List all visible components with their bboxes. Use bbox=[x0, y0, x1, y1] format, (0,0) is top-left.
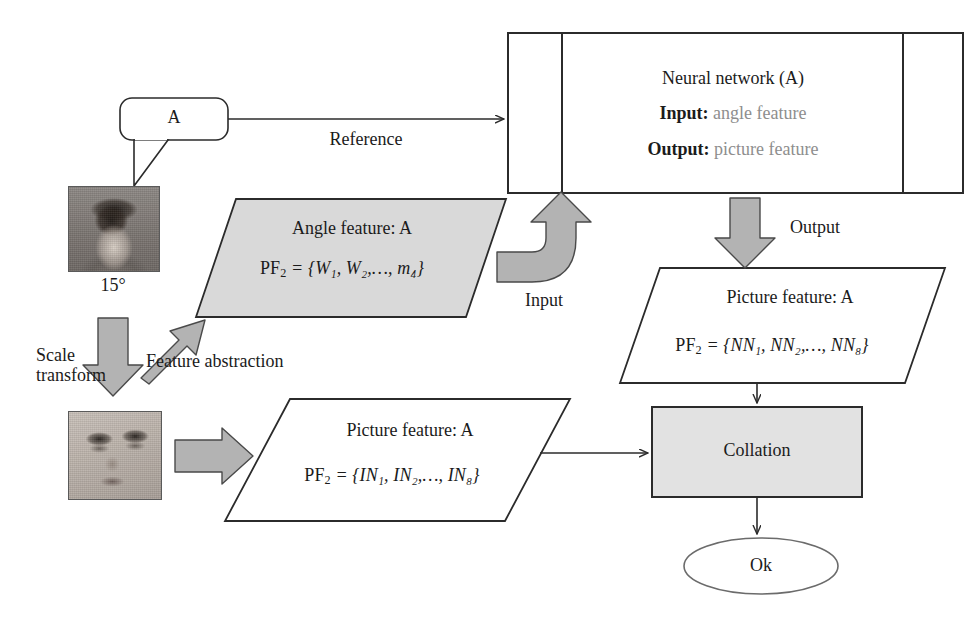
face-photo-grain bbox=[69, 412, 161, 499]
picture-feature-nn-shape bbox=[620, 268, 945, 383]
callout-label: A bbox=[168, 108, 181, 128]
portrait-photo bbox=[68, 186, 160, 272]
feature-abstraction-label: Feature abstraction bbox=[146, 352, 283, 372]
face-to-feature-block-arrow bbox=[175, 428, 253, 484]
picture-feature-in-formula-sub: 2 bbox=[325, 473, 331, 487]
picture-feature-in-shape bbox=[225, 399, 570, 521]
picture-feature-nn-formula: PF2 = {NN₁, NN₂,…, NN₈} bbox=[675, 336, 868, 358]
angle-feature-formula-rhs: = {W₁, W₂,…, m₄} bbox=[291, 258, 424, 278]
picture-feature-nn-formula-rhs: = {NN₁, NN₂,…, NN₈} bbox=[706, 335, 868, 355]
picture-feature-nn-formula-sub: 2 bbox=[696, 343, 702, 357]
neural-network-output-row: Output: picture feature bbox=[648, 140, 819, 160]
diagram-vector-layer bbox=[0, 0, 978, 619]
neural-network-output-label: Output: bbox=[648, 139, 710, 159]
portrait-photo-grain bbox=[69, 187, 159, 271]
output-label: Output bbox=[790, 218, 840, 238]
scale-transform-label: Scale transform bbox=[36, 346, 106, 386]
angle-feature-formula-lhs: PF bbox=[260, 258, 280, 278]
callout-tail bbox=[134, 140, 168, 186]
reference-label: Reference bbox=[330, 130, 403, 150]
picture-feature-nn-formula-lhs: PF bbox=[675, 335, 695, 355]
collation-label: Collation bbox=[724, 441, 791, 461]
scale-transform-line2: transform bbox=[36, 366, 106, 386]
angle-feature-formula-sub: 2 bbox=[280, 266, 286, 280]
face-photo bbox=[68, 411, 162, 500]
picture-feature-nn-title: Picture feature: A bbox=[727, 288, 854, 308]
input-curved-block-arrow bbox=[497, 192, 591, 282]
picture-feature-in-formula-lhs: PF bbox=[304, 465, 324, 485]
diagram-canvas: A Reference Neural network (A) Input: an… bbox=[0, 0, 978, 619]
neural-network-input-label: Input: bbox=[660, 103, 709, 123]
neural-network-title: Neural network (A) bbox=[662, 69, 804, 89]
input-label: Input bbox=[525, 291, 563, 311]
picture-feature-in-title: Picture feature: A bbox=[347, 421, 474, 441]
neural-network-input-value: angle feature bbox=[713, 103, 806, 123]
neural-network-input-row: Input: angle feature bbox=[660, 104, 807, 124]
portrait-angle-label: 15° bbox=[100, 276, 125, 296]
neural-network-output-value: picture feature bbox=[714, 139, 818, 159]
angle-feature-formula: PF2 = {W₁, W₂,…, m₄} bbox=[260, 259, 424, 281]
scale-transform-line1: Scale bbox=[36, 346, 106, 366]
angle-feature-title: Angle feature: A bbox=[292, 219, 412, 239]
picture-feature-in-formula: PF2 = {IN₁, IN₂,…, IN₈} bbox=[304, 466, 479, 488]
output-block-arrow bbox=[715, 198, 775, 268]
result-label: Ok bbox=[750, 556, 772, 576]
picture-feature-in-formula-rhs: = {IN₁, IN₂,…, IN₈} bbox=[335, 465, 479, 485]
